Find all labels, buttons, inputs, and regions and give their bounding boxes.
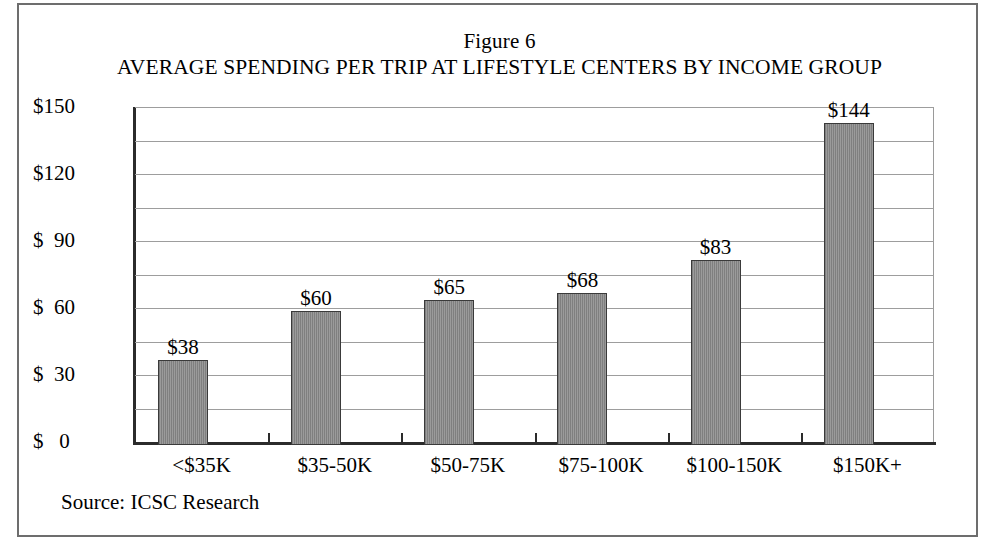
gridline [135,275,934,276]
x-axis-tick [668,433,670,443]
bar-value-label: $38 [167,337,199,358]
gridline [135,342,934,343]
gridline [135,241,934,242]
bar: $83 [691,260,741,445]
bar-value-label: $65 [434,277,466,298]
y-axis-tick-label: $ 0 [33,431,125,452]
gridline [135,107,934,108]
x-axis-category-label: $35-50K [297,454,372,477]
x-axis-category-label: <$35K [172,454,231,477]
gridline [135,208,934,209]
figure-number: Figure 6 [19,29,980,54]
page-title: AVERAGE SPENDING PER TRIP AT LIFESTYLE C… [19,54,980,81]
source-note: Source: ICSC Research [61,490,259,514]
x-axis-category-label: $150K+ [833,454,902,477]
bar: $65 [424,300,474,445]
bar-value-label: $60 [300,288,332,309]
bar: $38 [158,360,208,445]
x-axis-category-label: $75-100K [558,454,643,477]
gridline [135,308,934,309]
bar-value-label: $83 [700,237,732,258]
bar: $144 [824,123,874,445]
x-axis-tick [401,433,403,443]
title-block: Figure 6 AVERAGE SPENDING PER TRIP AT LI… [19,29,980,81]
gridline [135,174,934,175]
gridline [135,409,934,410]
y-axis-tick-label: $ 30 [33,364,125,385]
y-axis-tick-label: $ 90 [33,230,125,251]
x-axis-tick [801,433,803,443]
gridline [135,141,934,142]
y-axis-tick-label: $120 [33,163,125,184]
x-axis-tick [535,433,537,443]
figure-frame: Figure 6 AVERAGE SPENDING PER TRIP AT LI… [17,3,978,537]
x-axis-category-label: $50-75K [431,454,506,477]
gridline [135,375,934,376]
x-axis-tick [268,433,270,443]
bar-chart: $ 0$ 30$ 60$ 90$120$150 $38$60$65$68$83$… [135,107,934,445]
y-axis-tick-label: $150 [33,96,125,117]
y-axis-tick-label: $ 60 [33,297,125,318]
bar-value-label: $144 [828,100,870,121]
bar: $60 [291,311,341,445]
bar-value-label: $68 [567,270,599,291]
bar: $68 [557,293,607,445]
x-axis-category-label: $100-150K [686,454,782,477]
y-axis-line [133,107,136,444]
